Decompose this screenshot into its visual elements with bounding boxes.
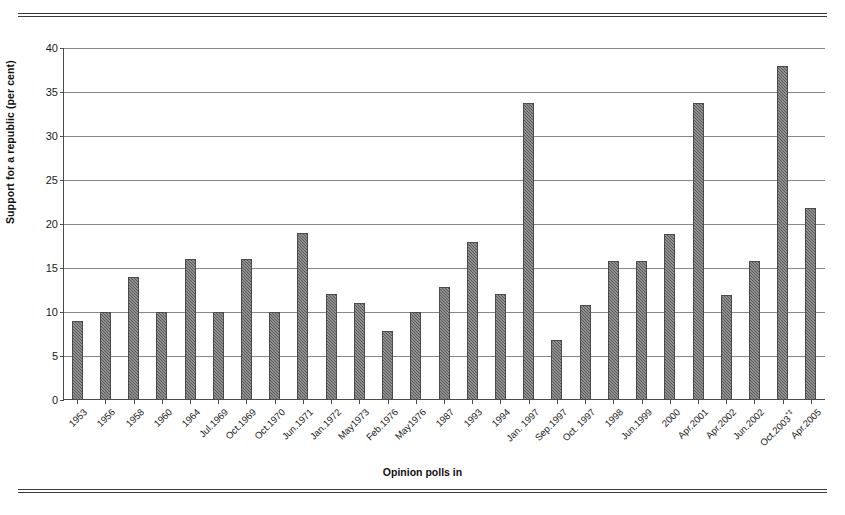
x-axis-tick-mark <box>726 400 727 404</box>
bar <box>354 303 365 400</box>
x-axis-tick-mark <box>275 400 276 404</box>
bars-layer <box>63 48 825 400</box>
x-axis-tick-mark <box>783 400 784 404</box>
bar <box>185 259 196 400</box>
bar <box>580 305 591 400</box>
x-axis-tick-mark <box>642 400 643 404</box>
bar <box>805 208 816 400</box>
x-axis-tick-mark <box>444 400 445 404</box>
x-axis-tick-mark <box>105 400 106 404</box>
top-divider-rule <box>18 13 827 17</box>
bar <box>721 295 732 400</box>
x-axis-tick-mark <box>134 400 135 404</box>
y-axis-title: Support for a republic (per cent) <box>4 60 16 224</box>
x-axis-tick-mark <box>585 400 586 404</box>
x-axis-tick-mark <box>331 400 332 404</box>
bar <box>693 103 704 400</box>
y-axis-tick-label: 10 <box>46 307 58 318</box>
x-axis-tick-mark <box>698 400 699 404</box>
bar <box>297 233 308 400</box>
y-axis-tick-label: 25 <box>46 175 58 186</box>
bar <box>523 103 534 400</box>
bar <box>467 242 478 400</box>
bar <box>664 234 675 400</box>
x-axis-tick-mark <box>529 400 530 404</box>
x-axis-tick-mark <box>246 400 247 404</box>
bar <box>551 340 562 400</box>
x-axis-tick-mark <box>359 400 360 404</box>
y-axis-tick-label: 35 <box>46 87 58 98</box>
x-axis-tick-mark <box>754 400 755 404</box>
bar <box>156 312 167 400</box>
x-axis-tick-mark <box>557 400 558 404</box>
x-axis-tick-mark <box>388 400 389 404</box>
bottom-divider-rule <box>18 489 827 493</box>
bar <box>326 294 337 400</box>
x-axis-ticks <box>63 400 825 406</box>
bar <box>410 312 421 400</box>
bar <box>439 287 450 400</box>
figure-container: Support for a republic (per cent) 051015… <box>0 0 845 515</box>
bar <box>213 312 224 400</box>
bar <box>72 321 83 400</box>
bar <box>749 261 760 400</box>
x-axis-tick-mark <box>613 400 614 404</box>
x-axis-title: Opinion polls in <box>0 466 845 478</box>
y-axis-tick-label: 40 <box>46 43 58 54</box>
y-axis-tick-label: 30 <box>46 131 58 142</box>
bar <box>636 261 647 400</box>
x-axis-tick-mark <box>472 400 473 404</box>
bar <box>241 259 252 400</box>
bar <box>128 277 139 400</box>
bar <box>269 312 280 400</box>
bar <box>495 294 506 400</box>
x-axis-tick-mark <box>670 400 671 404</box>
x-axis-tick-mark <box>416 400 417 404</box>
bar <box>100 312 111 400</box>
x-axis-tick-mark <box>303 400 304 404</box>
x-axis-tick-mark <box>811 400 812 404</box>
x-axis-tick-mark <box>162 400 163 404</box>
bar <box>777 66 788 400</box>
x-axis-tick-mark <box>77 400 78 404</box>
y-axis-tick-label: 0 <box>52 395 58 406</box>
bar <box>608 261 619 400</box>
x-axis-tick-mark <box>218 400 219 404</box>
y-axis-tick-label: 20 <box>46 219 58 230</box>
y-axis-tick-label: 15 <box>46 263 58 274</box>
x-axis-tick-labels: 19531956195819601964Jul.1969Oct.1969Oct.… <box>63 407 825 465</box>
bar <box>382 331 393 400</box>
y-axis-tick-label: 5 <box>52 351 58 362</box>
x-axis-tick-mark <box>190 400 191 404</box>
x-axis-tick-mark <box>500 400 501 404</box>
